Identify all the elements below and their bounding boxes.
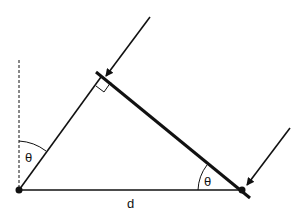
incoming-ray-arrow-upper: [106, 17, 150, 76]
distance-label-d: d: [127, 196, 134, 211]
left-edge-line: [19, 77, 101, 190]
theta-label-left: θ: [25, 150, 32, 165]
left-point-dot: [16, 187, 23, 194]
incoming-ray-arrow-right: [247, 128, 290, 185]
wavefront-thick-line: [96, 72, 250, 198]
angle-arc-left: [19, 141, 46, 151]
diffraction-geometry-diagram: θ θ d: [0, 0, 308, 218]
theta-label-right: θ: [204, 174, 211, 189]
right-point-dot: [239, 187, 246, 194]
